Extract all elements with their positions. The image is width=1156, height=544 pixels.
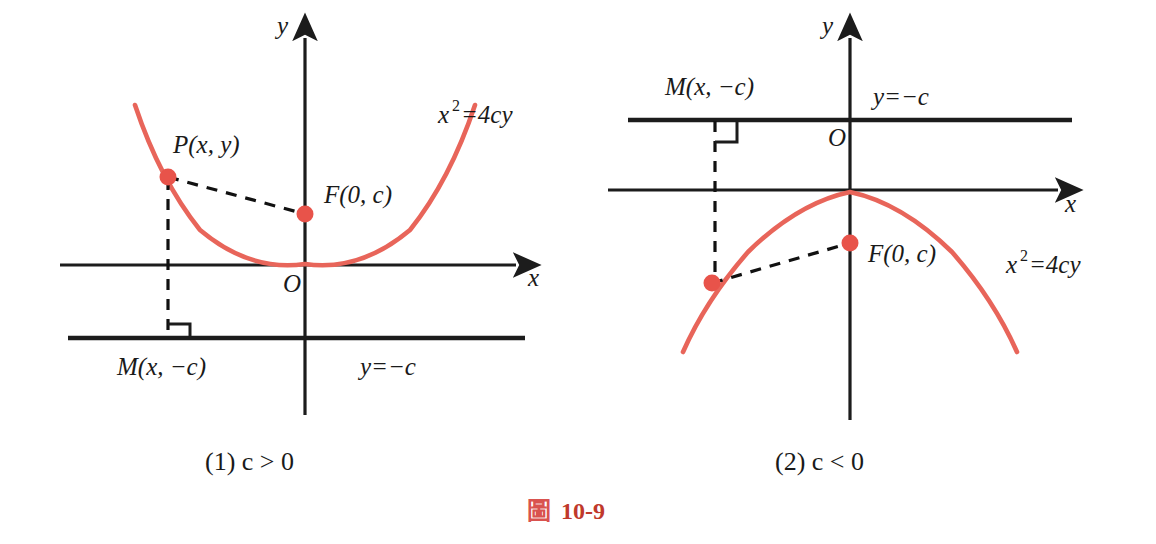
- panel-2-y-axis-label: y: [819, 12, 834, 39]
- panel-2-segment-pf: [712, 243, 850, 283]
- panel-1-y-axis-label: y: [274, 12, 289, 39]
- panel-1-origin-label: O: [283, 270, 301, 297]
- panel-2-right-angle-icon: [715, 121, 737, 142]
- panel-1-group: y x O P(x, y) F(0, c) M(x, −c) y=−c x 2 …: [60, 12, 539, 476]
- figure-caption-number: 10-9: [561, 498, 605, 524]
- panel-2-caption: (2) c < 0: [775, 447, 864, 476]
- panel-1-equation-exponent: 2: [452, 97, 460, 114]
- figure-container: y x O P(x, y) F(0, c) M(x, −c) y=−c x 2 …: [0, 0, 1156, 544]
- panel-2-group: y x O M(x, −c) y=−c F(0, c) x 2 =4cy (2)…: [608, 12, 1081, 476]
- panel-2-equation-base: x: [1005, 251, 1017, 278]
- panel-2-equation-exponent: 2: [1020, 247, 1028, 264]
- panel-2-point-m-label: M(x, −c): [664, 73, 754, 101]
- panel-1-equation-rest: =4cy: [461, 101, 513, 128]
- figure-caption-prefix: 圖: [527, 498, 551, 524]
- panel-2-point-f-label: F(0, c): [867, 240, 936, 268]
- panel-1-equation-base: x: [437, 101, 449, 128]
- panel-1-directrix-label: y=−c: [357, 353, 416, 380]
- panel-2-directrix-label: y=−c: [870, 83, 929, 110]
- panel-2-equation-label: x 2 =4cy: [1005, 247, 1081, 278]
- panel-1-point-f: [297, 206, 314, 223]
- parabola-figure-svg: y x O P(x, y) F(0, c) M(x, −c) y=−c x 2 …: [0, 0, 1156, 544]
- panel-1-point-m-label: M(x, −c): [116, 353, 206, 381]
- panel-1-segment-pf: [168, 177, 305, 214]
- panel-2-equation-rest: =4cy: [1029, 251, 1081, 278]
- figure-caption-group: 圖 10-9: [527, 498, 605, 524]
- panel-1-point-f-label: F(0, c): [323, 181, 392, 209]
- panel-1-equation-label: x 2 =4cy: [437, 97, 513, 128]
- panel-2-point-p: [704, 275, 721, 292]
- panel-1-point-p: [160, 169, 177, 186]
- panel-1-point-p-label: P(x, y): [172, 131, 240, 159]
- panel-2-origin-label: O: [828, 124, 846, 151]
- panel-1-x-axis-label: x: [527, 264, 539, 291]
- panel-2-x-axis-label: x: [1064, 190, 1076, 217]
- panel-2-point-f: [842, 235, 859, 252]
- panel-1-caption: (1) c > 0: [205, 447, 294, 476]
